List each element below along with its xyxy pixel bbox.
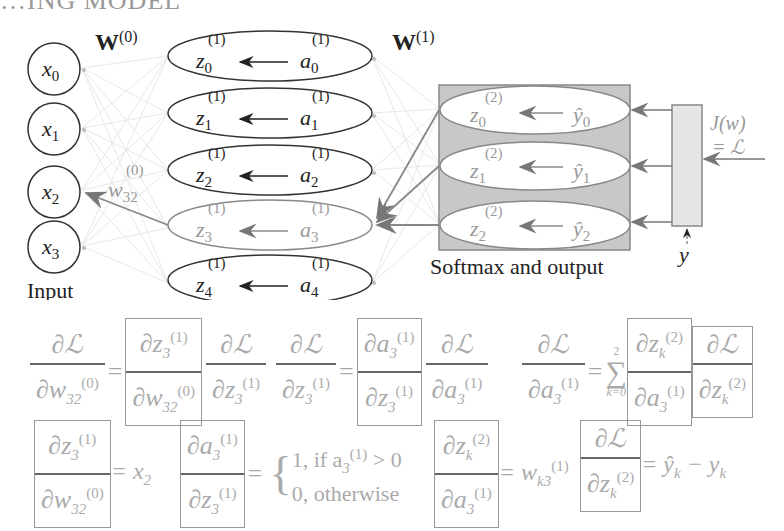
svg-text:(1): (1) — [312, 88, 330, 105]
svg-text:z4: z4 — [195, 272, 213, 300]
svg-text:z0: z0 — [195, 48, 212, 76]
derivative-da3-dz3: ∂a3(1)∂z3(1)= { 1, if a3(1) > 0 0, other… — [180, 420, 402, 528]
svg-text:z1: z1 — [195, 105, 212, 133]
weight-label-0: W(0) — [95, 28, 138, 55]
svg-text:(1): (1) — [208, 200, 226, 217]
svg-text:x2: x2 — [41, 179, 59, 207]
summation: 2∑k=0 — [606, 344, 627, 400]
term-dz3-dw32: ∂z3(1)∂w32(0) — [125, 318, 202, 426]
svg-text:a3: a3 — [300, 217, 319, 245]
svg-text:(1): (1) — [208, 145, 226, 162]
svg-text:(1): (1) — [312, 200, 330, 217]
network-diagram: W(0) W(1) x0 x1 x2 x3 Input z0(1) a0(1) … — [0, 0, 784, 300]
svg-text:z3: z3 — [195, 217, 212, 245]
svg-text:a1: a1 — [300, 105, 319, 133]
svg-text:x1: x1 — [41, 116, 59, 144]
svg-text:a0: a0 — [300, 48, 319, 76]
loss-label-line1: J(w) — [710, 112, 746, 135]
svg-text:(1): (1) — [312, 145, 330, 162]
svg-text:(1): (1) — [312, 31, 330, 48]
target-label: y — [677, 242, 689, 267]
svg-text:(2): (2) — [485, 203, 503, 220]
output-node-2 — [440, 201, 630, 249]
svg-text:a2: a2 — [300, 162, 319, 190]
svg-text:(1): (1) — [312, 255, 330, 272]
output-label: Softmax and output — [430, 254, 604, 279]
svg-text:(2): (2) — [485, 145, 503, 162]
term-dL-dzk: ∂ℒ∂zk(2) — [692, 326, 753, 418]
svg-text:(1): (1) — [208, 255, 226, 272]
output-node-1 — [440, 142, 630, 190]
equation-dL-dz3: ∂ℒ∂z3(1)=∂a3(1)∂z3(1) ∂ℒ∂a3(1) — [276, 318, 488, 426]
term-da3-dz3: ∂a3(1)∂z3(1) — [357, 318, 422, 426]
equation-dL-dw32: ∂ℒ∂w32(0)=∂z3(1)∂w32(0) ∂ℒ∂z3(1) — [30, 318, 266, 426]
loss-label-line2: = ℒ — [712, 136, 745, 158]
svg-text:(2): (2) — [485, 89, 503, 106]
svg-text:(1): (1) — [208, 31, 226, 48]
svg-text:w32: w32 — [108, 177, 138, 205]
loss-box — [672, 105, 702, 226]
output-node-0 — [440, 86, 630, 134]
svg-text:z2: z2 — [195, 162, 212, 190]
svg-text:x0: x0 — [41, 56, 59, 84]
weight-label-1: W(1) — [392, 28, 435, 55]
relu-cases: { 1, if a3(1) > 0 0, otherwise — [270, 441, 402, 507]
derivative-dzk-da3: ∂zk(2)∂a3(1)= wk3(1) — [434, 420, 569, 528]
svg-text:(1): (1) — [208, 88, 226, 105]
svg-text:a4: a4 — [300, 272, 319, 300]
term-dzk-da3: ∂zk(2)∂a3(1) — [627, 318, 692, 426]
derivative-dL-dzk: ∂ℒ∂zk(2)= ŷk − yk — [580, 420, 726, 512]
equation-dL-da3: ∂ℒ∂a3(1)=2∑k=0∂zk(2)∂a3(1)∂ℒ∂zk(2) — [522, 318, 753, 426]
svg-text:x3: x3 — [41, 234, 59, 262]
derivative-dz3-dw32: ∂z3(1)∂w32(0)= x2 — [34, 420, 151, 528]
input-label: Input — [27, 278, 73, 300]
svg-text:(0): (0) — [126, 162, 144, 179]
